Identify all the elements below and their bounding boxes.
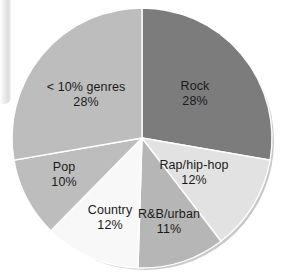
- pie-label-pop: Pop 10%: [37, 160, 91, 189]
- pie-label-country-name: Country: [77, 203, 143, 218]
- pie-label-rap-hip-hop: Rap/hip-hop 12%: [148, 158, 240, 187]
- pie-label-rock-name: Rock: [160, 79, 230, 94]
- pie-label-small-genres-value: 28%: [32, 95, 140, 110]
- pie-label-small-genres-name: < 10% genres: [32, 80, 140, 95]
- pie-label-rap-hip-hop-value: 12%: [148, 173, 240, 188]
- pie-label-rap-hip-hop-name: Rap/hip-hop: [148, 158, 240, 173]
- pie-label-pop-value: 10%: [37, 175, 91, 190]
- pie-chart: Rock 28% Rap/hip-hop 12% R&B/urban 11% C…: [0, 0, 285, 277]
- pie-label-pop-name: Pop: [37, 160, 91, 175]
- pie-label-rock-value: 28%: [160, 94, 230, 109]
- pie-label-small-genres: < 10% genres 28%: [32, 80, 140, 109]
- pie-label-country: Country 12%: [77, 203, 143, 232]
- pie-label-country-value: 12%: [77, 218, 143, 233]
- pie-label-rock: Rock 28%: [160, 79, 230, 108]
